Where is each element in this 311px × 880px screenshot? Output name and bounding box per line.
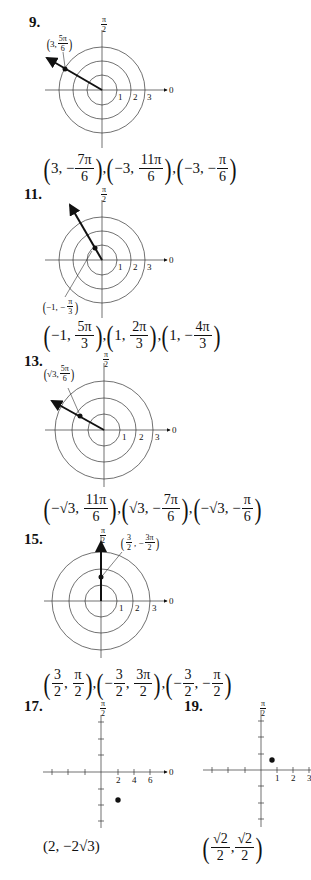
axis-label-pi-over-2-11: π2 (99, 186, 109, 204)
axis-label-zero-13: 0 (172, 425, 177, 435)
ray-11 (65, 205, 102, 297)
ray-9 (47, 52, 102, 90)
tick-label-2: 2 (291, 773, 296, 783)
tick-label-3: 3 (152, 603, 157, 613)
tick-label-1: 1 (119, 603, 124, 613)
answer-list-11: (−1, 5π3), (1, 2π3), (1, −4π3) (43, 320, 221, 351)
axis-label-zero-17: 0 (169, 767, 174, 777)
tick-label-1: 1 (275, 773, 280, 783)
problem-number-13: 13. (24, 353, 43, 370)
tick-label-2: 2 (133, 262, 138, 272)
problem-number-19: 19. (184, 698, 203, 715)
tick-label-2: 2 (139, 432, 144, 442)
axes-17 (43, 715, 167, 828)
tick-label-1: 1 (122, 432, 127, 442)
tick-label-2: 2 (116, 775, 121, 785)
tick-label-3: 3 (307, 773, 311, 783)
tick-label-2: 2 (135, 603, 140, 613)
answer-list-9: (3, −7π6), (−3, 11π6), (−3, −π6) (43, 153, 237, 184)
problem-number-11: 11. (24, 186, 42, 203)
axis-label-zero-11: 0 (169, 255, 174, 265)
axis-label-pi-over-2-19: π2 (258, 700, 268, 718)
tick-label-1: 1 (118, 92, 123, 102)
axis-label-pi-over-2-17: π2 (98, 700, 108, 718)
ray-15 (99, 542, 123, 601)
tick-label-3: 3 (147, 92, 152, 102)
tick-label-6: 6 (148, 775, 153, 785)
point-label-13: ( √3, 5π6 ) (44, 365, 74, 383)
axis-label-pi-over-2-9: π2 (99, 16, 109, 34)
problem-number-9: 9. (29, 14, 40, 31)
tick-label-1: 1 (118, 262, 123, 272)
point-label-15: ( 32, − 3π2 ) (121, 534, 159, 552)
tick-label-4: 4 (132, 775, 137, 785)
tick-label-2: 2 (133, 92, 138, 102)
point-19 (269, 757, 274, 762)
axes-19 (203, 710, 311, 827)
axis-label-pi-over-2-13: π2 (101, 351, 111, 369)
axis-label-pi-over-2-15: π2 (98, 527, 108, 545)
point-label-9: ( 3, 5π6 ) (47, 35, 72, 53)
answer-list-15: (32, π2), (−32, 3π2), (−32, −π2) (43, 668, 232, 699)
answer-list-13: (−√3, 11π6), (√3, −7π6), (−√3, −π6) (43, 493, 262, 524)
tick-label-3: 3 (155, 432, 160, 442)
polar-grid-15 (44, 535, 167, 658)
axis-label-zero-15: 0 (169, 596, 174, 606)
axis-label-zero-9: 0 (169, 85, 174, 95)
answer-19: (√22,√22) (202, 832, 263, 863)
answer-17: (2, −2√3) (43, 838, 100, 855)
point-17 (115, 797, 120, 802)
tick-label-3: 3 (147, 262, 152, 272)
problem-number-15: 15. (24, 531, 43, 548)
point-label-11: ( −1, − π3 ) (43, 298, 78, 316)
problem-number-17: 17. (24, 698, 43, 715)
